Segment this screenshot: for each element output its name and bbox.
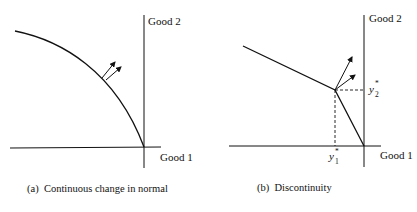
svg-text:y: y <box>328 150 334 162</box>
panel-a-caption: (a) Continuous change in normal <box>27 183 168 195</box>
figure: Good 2 Good 1 (a) Continuous change in n… <box>0 0 417 212</box>
panel-a-x-axis <box>10 147 161 148</box>
svg-text:y: y <box>368 83 374 95</box>
svg-text:1: 1 <box>335 157 339 166</box>
panel-a: Good 2 Good 1 (a) Continuous change in n… <box>10 15 193 195</box>
panel-b-caption: (b) Discontinuity <box>257 182 332 194</box>
panel-b-normal-arrow-1 <box>335 57 352 90</box>
panel-b-y1-star-label: y * 1 <box>328 147 339 166</box>
panel-b: Good 2 Good 1 y * 2 y * 1 (b) Discontinu… <box>229 12 413 194</box>
panel-b-x-axis-label: Good 1 <box>380 149 413 161</box>
panel-a-frontier-curve <box>15 31 144 147</box>
panel-a-normal-arrow-1 <box>102 62 115 78</box>
panel-b-y-axis-label: Good 2 <box>369 12 402 24</box>
svg-text:*: * <box>375 79 379 88</box>
panel-a-normal-arrow-2 <box>106 67 121 80</box>
svg-text:2: 2 <box>375 90 379 99</box>
panel-a-y-axis-label: Good 2 <box>148 15 181 27</box>
panel-b-y2-star-label: y * 2 <box>368 79 379 99</box>
panel-a-x-axis-label: Good 1 <box>160 151 193 163</box>
panel-b-normal-arrow-2 <box>335 75 355 90</box>
panel-b-frontier-kinked <box>243 46 364 146</box>
svg-text:*: * <box>335 147 339 156</box>
